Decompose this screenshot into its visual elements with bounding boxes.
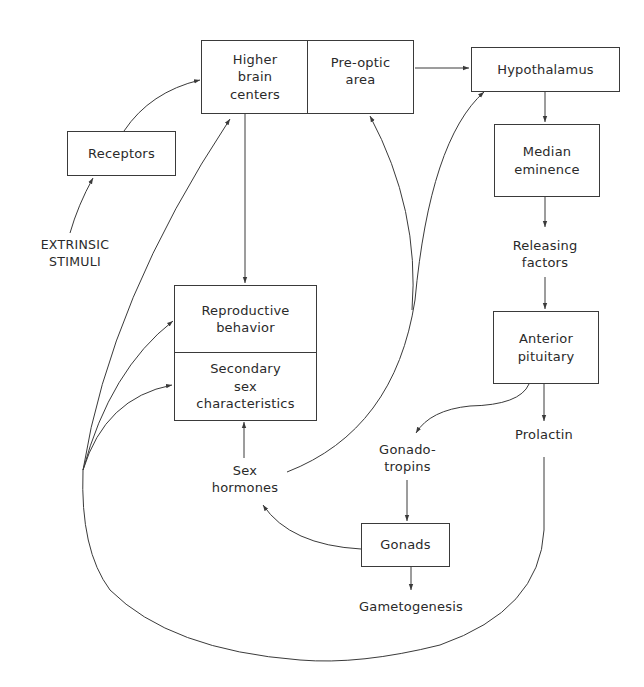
higher-brain-centers-cell: Higher brain centers: [202, 41, 308, 113]
anterior-pituitary-label: Anterior pituitary: [518, 330, 575, 365]
reproductive-secondary-box: Reproductive behavior Secondary sex char…: [174, 285, 317, 421]
gametogenesis-label: Gametogenesis: [351, 598, 471, 615]
hypothalamus-box: Hypothalamus: [471, 47, 620, 92]
prolactin-label: Prolactin: [494, 426, 594, 443]
receptors-box: Receptors: [67, 131, 176, 176]
arrow-loop-to-reproductive: [83, 321, 173, 470]
anterior-pituitary-box: Anterior pituitary: [493, 311, 599, 384]
pre-optic-area-cell: Pre-optic area: [308, 41, 413, 101]
arrow-receptors-to-higher-brain: [124, 80, 200, 131]
secondary-sex-characteristics-cell: Secondary sex characteristics: [175, 353, 316, 420]
releasing-factors-label: Releasing factors: [495, 237, 595, 271]
prolactin-feedback-loop: [83, 457, 544, 661]
hypothalamus-label: Hypothalamus: [497, 61, 594, 79]
gonads-label: Gonads: [380, 536, 430, 554]
reproductive-behavior-cell: Reproductive behavior: [175, 286, 316, 352]
arrow-to-preoptic: [370, 116, 413, 310]
gonadotropins-label: Gonado- tropins: [360, 441, 455, 475]
sex-hormones-label: Sex hormones: [200, 462, 290, 496]
arrow-stimuli-to-receptors: [70, 178, 93, 233]
median-eminence-box: Median eminence: [494, 124, 600, 197]
higher-brain-preoptic-box: Higher brain centers Pre-optic area: [201, 40, 414, 114]
receptors-label: Receptors: [88, 145, 155, 163]
arrow-gonads-to-sex-hormones: [263, 505, 361, 549]
extrinsic-stimuli-label: EXTRINSIC STIMULI: [30, 236, 120, 270]
median-eminence-label: Median eminence: [514, 143, 580, 178]
pre-optic-area-label: Pre-optic area: [331, 54, 390, 89]
gonads-box: Gonads: [361, 523, 450, 567]
arrow-loop-to-secondary: [83, 385, 172, 470]
higher-brain-centers-label: Higher brain centers: [230, 51, 280, 104]
secondary-sex-characteristics-label: Secondary sex characteristics: [196, 360, 294, 413]
reproductive-behavior-label: Reproductive behavior: [201, 302, 289, 337]
